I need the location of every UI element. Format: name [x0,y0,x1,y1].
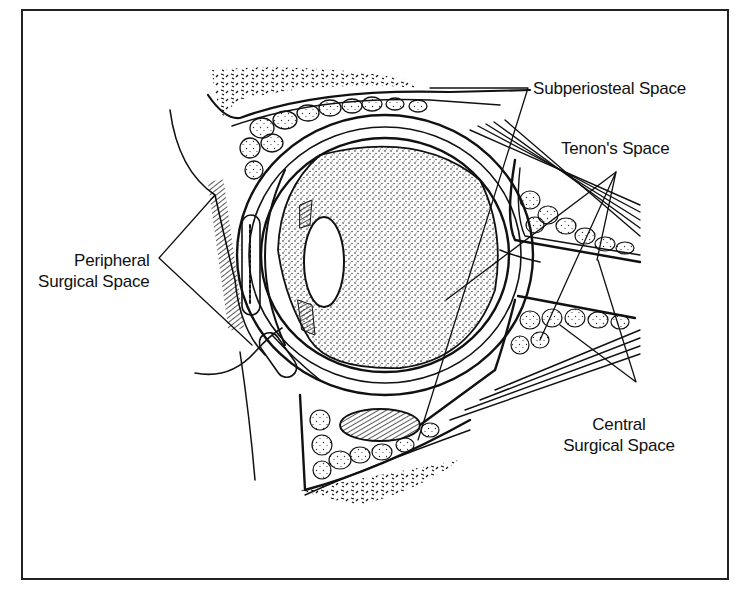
label-line-1: Central [549,414,689,435]
lens [304,217,344,307]
globe [237,115,540,395]
inferior-oblique [340,409,420,441]
label-line-2: Surgical Space [549,435,689,456]
label-central-surgical-space: Central Surgical Space [549,414,689,456]
label-tenons-space: Tenon's Space [561,138,669,159]
label-peripheral-surgical-space: Peripheral Surgical Space [38,250,150,292]
label-line-1: Peripheral [38,250,150,271]
label-line-2: Surgical Space [38,271,150,292]
label-subperiosteal-space: Subperiosteal Space [533,78,686,99]
label-text: Tenon's Space [561,138,669,159]
lower-right-fat [511,309,629,354]
label-text: Subperiosteal Space [533,78,686,99]
